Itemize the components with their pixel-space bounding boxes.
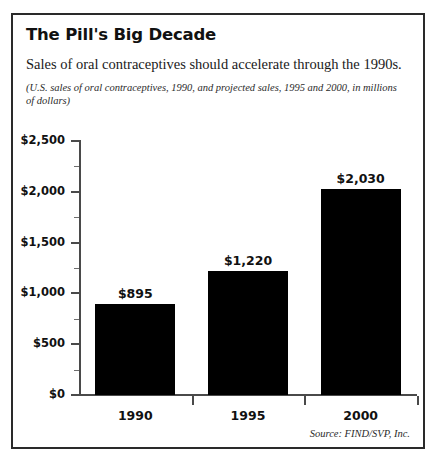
- y-tick-major: [71, 191, 79, 193]
- y-axis-label: $1,500: [0, 237, 65, 248]
- bar: [95, 304, 175, 395]
- y-axis-line: [79, 140, 81, 396]
- y-tick-minor: [74, 217, 79, 218]
- x-tick: [192, 396, 194, 405]
- source-attribution: Source: FIND/SVP, Inc.: [310, 428, 410, 439]
- y-tick-minor: [74, 166, 79, 167]
- bar: [321, 189, 401, 395]
- y-tick-major: [71, 140, 79, 142]
- y-tick-minor: [74, 319, 79, 320]
- bar-chart-plot: $0$500$1,000$1,500$2,000$2,500 199019952…: [13, 15, 427, 451]
- x-axis-label: 1995: [192, 408, 304, 423]
- bar-value-label: $895: [79, 286, 191, 301]
- y-axis-label: $1,000: [0, 287, 65, 298]
- y-tick-major: [71, 343, 79, 345]
- x-tick-end: [417, 396, 419, 405]
- y-axis-label: $2,500: [0, 135, 65, 146]
- x-axis-label: 1990: [79, 408, 191, 423]
- y-tick-minor: [74, 370, 79, 371]
- bar-value-label: $1,220: [192, 253, 304, 268]
- y-axis-label: $500: [0, 338, 65, 349]
- x-axis-label: 2000: [305, 408, 417, 423]
- x-tick: [304, 396, 306, 405]
- y-tick-major: [71, 394, 79, 396]
- chart-figure: The Pill's Big Decade Sales of oral cont…: [11, 13, 425, 449]
- bar-value-label: $2,030: [305, 171, 417, 186]
- y-tick-major: [71, 242, 79, 244]
- y-tick-minor: [74, 268, 79, 269]
- y-tick-major: [71, 292, 79, 294]
- bar: [208, 271, 288, 395]
- y-axis-label: $0: [0, 389, 65, 400]
- y-axis-label: $2,000: [0, 186, 65, 197]
